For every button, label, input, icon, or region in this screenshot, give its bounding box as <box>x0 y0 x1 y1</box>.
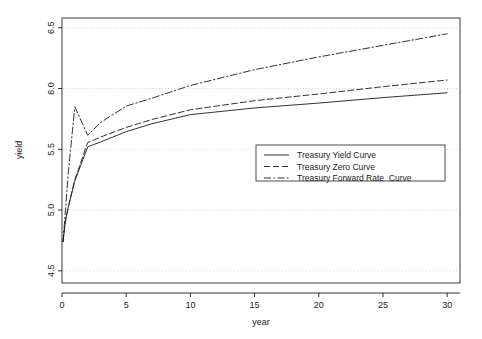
x-tick-label-5: 5 <box>124 300 129 310</box>
y-tick-label-6.0: 6.0 <box>46 82 56 95</box>
x-axis: 051015202530 <box>59 293 460 310</box>
x-tick-label-25: 25 <box>378 300 388 310</box>
chart-screenshot: 4.55.05.56.06.5 051015202530 yield year … <box>0 0 482 339</box>
x-tick-label-0: 0 <box>59 300 64 310</box>
y-tick-label-6.5: 6.5 <box>46 21 56 34</box>
y-axis: 4.55.05.56.06.5 <box>46 21 62 277</box>
x-axis-title: year <box>252 317 270 327</box>
series-lines <box>63 34 447 242</box>
legend-label-0: Treasury Yield Curve <box>297 150 376 160</box>
chart-legend: Treasury Yield CurveTreasury Zero CurveT… <box>256 145 445 183</box>
x-tick-label-15: 15 <box>250 300 260 310</box>
legend-label-1: Treasury Zero Curve <box>297 162 375 172</box>
y-tick-label-5.0: 5.0 <box>46 204 56 217</box>
legend-label-2: Treasury Forward Rate Curve <box>297 173 412 183</box>
y-tick-label-5.5: 5.5 <box>46 143 56 156</box>
x-tick-label-20: 20 <box>314 300 324 310</box>
x-tick-label-10: 10 <box>185 300 195 310</box>
series-line-2 <box>63 34 447 242</box>
treasury-curves-chart: 4.55.05.56.06.5 051015202530 yield year … <box>0 0 482 339</box>
y-tick-label-4.5: 4.5 <box>46 265 56 278</box>
y-axis-title: yield <box>14 141 24 160</box>
x-tick-label-30: 30 <box>442 300 452 310</box>
